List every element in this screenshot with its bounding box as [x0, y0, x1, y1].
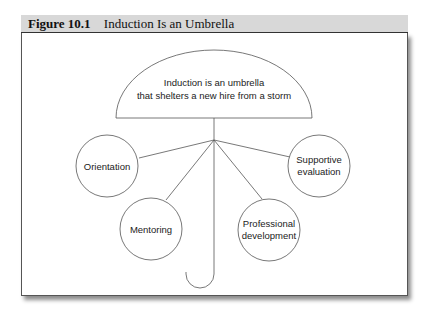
- canopy-text-line1: Induction is an umbrella: [164, 77, 265, 88]
- node-supportive-label-line2: evaluation: [297, 166, 340, 177]
- node-supportive-label-line1: Supportive: [296, 154, 341, 165]
- node-professional-label-line1: Professional: [243, 218, 295, 229]
- node-mentoring-label: Mentoring: [130, 224, 172, 235]
- node-orientation-label: Orientation: [84, 161, 130, 172]
- spoke-orientation: [139, 140, 214, 158]
- spoke-mentoring: [166, 140, 214, 200]
- umbrella-handle: [186, 272, 214, 288]
- canopy-text-line2: that shelters a new hire from a storm: [137, 90, 291, 101]
- node-professional-label-line2: development: [242, 230, 297, 241]
- umbrella-diagram: Induction is an umbrella that shelters a…: [0, 0, 430, 315]
